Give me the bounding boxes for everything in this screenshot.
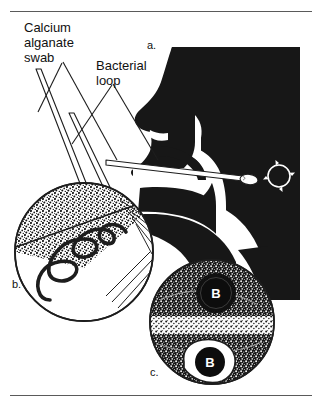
label-bacterial-loop: Bacterial loop	[96, 58, 174, 88]
colony-label-lower: B	[205, 355, 214, 370]
panel-b-letter: b.	[12, 278, 21, 290]
panel-c-culture-plate: B B	[150, 260, 274, 384]
panel-a-letter: a.	[147, 39, 156, 51]
panel-c-letter: c.	[150, 366, 159, 378]
panel-b-agar-plate	[15, 183, 156, 321]
figure-root: B B Calcium alganate swab Bacterial loop…	[0, 0, 321, 408]
colony-label-upper: B	[211, 286, 220, 301]
